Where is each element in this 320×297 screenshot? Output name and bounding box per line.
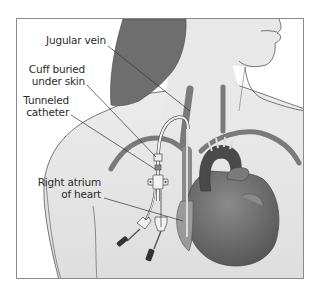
label-tunneled-catheter: Tunneled catheter (23, 94, 69, 118)
figure-frame: Jugular vein Cuff buried under skin Tunn… (16, 18, 304, 279)
label-right-atrium: Right atrium of heart (38, 176, 101, 200)
anatomy-illustration (17, 19, 304, 279)
label-cuff-buried-under-skin: Cuff buried under skin (29, 63, 85, 87)
label-jugular-vein: Jugular vein (46, 34, 106, 46)
